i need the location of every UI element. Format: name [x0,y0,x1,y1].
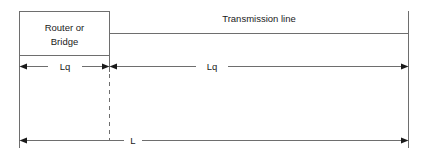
router-bridge-label-line2: Bridge [51,36,78,47]
arrowhead-lq-right-end [401,64,409,70]
dimension-total-l-label: L [130,135,135,146]
dimension-total-l: L [20,135,409,146]
dimension-lq-right-label: Lq [207,61,218,72]
router-bridge-box [20,12,110,56]
arrowhead-total-l-start [20,138,28,144]
dimension-lq-left: Lq [20,61,110,72]
arrowhead-lq-left-start [20,64,28,70]
dimension-lq-right: Lq [110,61,409,72]
arrowhead-total-l-end [401,138,409,144]
arrowhead-lq-right-start [110,64,118,70]
transmission-line-label: Transmission line [222,13,296,24]
router-bridge-label-line1: Router or [45,22,85,33]
transmission-line-diagram: Router or Bridge Transmission line Lq Lq [0,0,423,161]
diagram-canvas: Router or Bridge Transmission line Lq Lq [0,0,423,161]
dimension-lq-left-label: Lq [60,61,71,72]
arrowhead-lq-left-end [102,64,110,70]
